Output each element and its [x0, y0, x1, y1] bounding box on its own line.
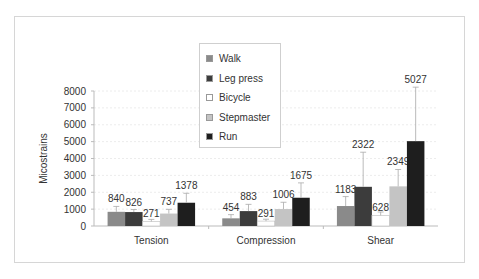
svg-text:2322: 2322 — [352, 139, 375, 150]
svg-text:Micostrains: Micostrains — [38, 133, 49, 184]
svg-text:454: 454 — [223, 202, 240, 213]
legend-item-walk: Walk — [206, 49, 280, 69]
legend-item-bicycle: Bicycle — [206, 88, 280, 108]
svg-text:2349: 2349 — [387, 156, 410, 167]
svg-text:Shear: Shear — [367, 235, 394, 246]
legend-item-leg-press: Leg press — [206, 69, 280, 89]
svg-text:1183: 1183 — [335, 184, 357, 195]
svg-text:6000: 6000 — [64, 119, 87, 130]
svg-text:5027: 5027 — [405, 74, 428, 85]
svg-text:826: 826 — [125, 197, 142, 208]
svg-text:271: 271 — [143, 208, 160, 219]
svg-text:3000: 3000 — [64, 170, 87, 181]
svg-text:1000: 1000 — [64, 204, 87, 215]
legend-swatch — [206, 75, 213, 82]
svg-text:2000: 2000 — [64, 187, 87, 198]
svg-text:Tension: Tension — [134, 235, 168, 246]
svg-text:Compression: Compression — [237, 235, 296, 246]
svg-text:0: 0 — [80, 221, 86, 232]
svg-text:883: 883 — [240, 191, 257, 202]
svg-text:628: 628 — [372, 202, 389, 213]
svg-text:5000: 5000 — [64, 136, 87, 147]
legend-swatch — [206, 94, 213, 101]
legend-swatch — [206, 133, 213, 140]
svg-text:4000: 4000 — [64, 153, 87, 164]
svg-text:8000: 8000 — [64, 86, 87, 97]
svg-text:737: 737 — [160, 196, 177, 207]
svg-text:1675: 1675 — [290, 170, 313, 181]
svg-text:1006: 1006 — [272, 189, 295, 200]
svg-text:840: 840 — [108, 193, 125, 204]
svg-text:1378: 1378 — [175, 180, 198, 191]
svg-text:291: 291 — [258, 208, 275, 219]
chart-legend: Walk Leg press Bicycle Stepmaster Run — [199, 43, 281, 148]
legend-item-run: Run — [206, 127, 280, 147]
legend-swatch — [206, 114, 213, 121]
legend-swatch — [206, 55, 213, 62]
svg-text:7000: 7000 — [64, 102, 87, 113]
legend-item-stepmaster: Stepmaster — [206, 108, 280, 128]
